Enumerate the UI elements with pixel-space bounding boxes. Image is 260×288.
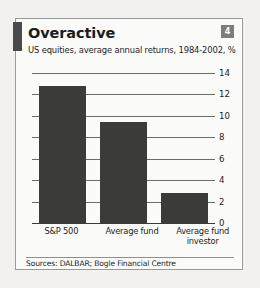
chart-card: Overactive US equities, average annual r… — [15, 18, 243, 270]
y-tick-label: 8 — [219, 133, 224, 142]
x-tick-label: S&P 500 — [26, 227, 97, 237]
y-tick-label: 4 — [219, 176, 224, 185]
bar-series — [32, 73, 215, 223]
y-tick-label: 6 — [219, 154, 224, 163]
status-badge: 4 — [221, 25, 234, 38]
y-tick-label: 2 — [219, 197, 224, 206]
chart-plot-area — [32, 73, 215, 223]
bar-1 — [39, 86, 86, 223]
y-tick-label: 10 — [219, 112, 230, 121]
x-tick-label: Average fund investor — [167, 227, 238, 246]
page-title: Overactive — [28, 26, 234, 41]
y-axis-ticks: 02468101214 — [219, 73, 245, 223]
y-tick-label: 12 — [219, 90, 230, 99]
bar-3 — [161, 193, 208, 223]
chart-subtitle: US equities, average annual returns, 198… — [28, 45, 234, 55]
footer-divider — [26, 257, 234, 258]
y-tick-label: 14 — [219, 69, 230, 78]
accent-tab — [13, 22, 22, 51]
gridline — [32, 223, 215, 224]
bar-2 — [100, 122, 147, 223]
card-header: Overactive US equities, average annual r… — [28, 26, 234, 55]
source-note: Sources: DALBAR; Bogle Financial Centre — [26, 259, 176, 268]
x-axis-labels: S&P 500Average fundAverage fund investor — [26, 227, 238, 257]
page-background: Overactive US equities, average annual r… — [0, 0, 260, 288]
x-tick-label: Average fund — [97, 227, 168, 237]
